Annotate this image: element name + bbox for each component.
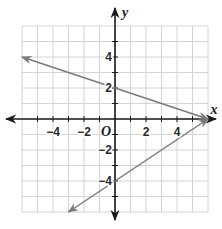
y-axis-label: y xyxy=(120,5,129,20)
x-tick-label: 2 xyxy=(143,125,150,139)
y-tick-label: 2 xyxy=(105,81,112,95)
x-tick-label: −4 xyxy=(46,125,60,139)
origin-label: O xyxy=(101,124,111,139)
x-axis-label: x xyxy=(210,102,218,117)
y-tick-label: 4 xyxy=(105,50,112,64)
x-tick-label: 4 xyxy=(174,125,181,139)
axis-labels: −4−22442−2−4Oxy xyxy=(46,5,217,188)
coordinate-plane: −4−22442−2−4Oxy xyxy=(0,0,222,229)
y-tick-label: −2 xyxy=(98,143,112,157)
y-tick-label: −4 xyxy=(98,174,112,188)
x-tick-label: −2 xyxy=(77,125,91,139)
